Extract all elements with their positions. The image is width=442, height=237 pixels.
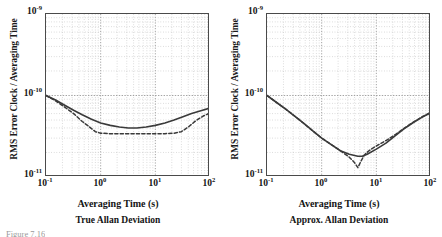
x-tick-label-1e2-right: 102 <box>410 179 442 189</box>
x-tick-label-1e-1-left: 10-1 <box>25 179 65 189</box>
panel-approx-allan: RMS Error Clock / Averaging Time 10-9 10… <box>221 0 442 237</box>
y-tick-label-1e-9-right: 10-9 <box>223 7 263 17</box>
panel-true-allan: RMS Error Clock / Averaging Time 10-9 10… <box>0 0 221 237</box>
x-tick-label-1e0-left: 100 <box>80 179 120 189</box>
curve-group-left <box>46 14 209 176</box>
series-dashed-curve <box>267 96 430 168</box>
series-solid-curve <box>267 96 430 157</box>
y-tick-label-1e-9-left: 10-9 <box>2 7 42 17</box>
y-tick-label-1e-10-right: 10-10 <box>223 89 263 99</box>
x-tick-label-1e0-right: 100 <box>301 179 341 189</box>
panel-subcaption-right: Approx. Allan Deviation <box>239 215 439 225</box>
plot-area-approx-allan <box>266 13 430 176</box>
x-axis-title-left: Averaging Time (s) <box>18 198 218 209</box>
plot-area-true-allan <box>45 13 209 176</box>
panel-subcaption-left: True Allan Deviation <box>18 215 218 225</box>
curve-group-right <box>267 14 430 176</box>
x-tick-label-1e1-left: 101 <box>135 179 175 189</box>
x-tick-label-1e1-right: 101 <box>356 179 396 189</box>
figure-allan-deviation: RMS Error Clock / Averaging Time 10-9 10… <box>0 0 442 237</box>
x-tick-label-1e-1-right: 10-1 <box>246 179 286 189</box>
y-tick-label-1e-10-left: 10-10 <box>2 89 42 99</box>
x-axis-title-right: Averaging Time (s) <box>239 198 439 209</box>
figure-caption-fragment: Figure 7.16 <box>6 229 45 237</box>
